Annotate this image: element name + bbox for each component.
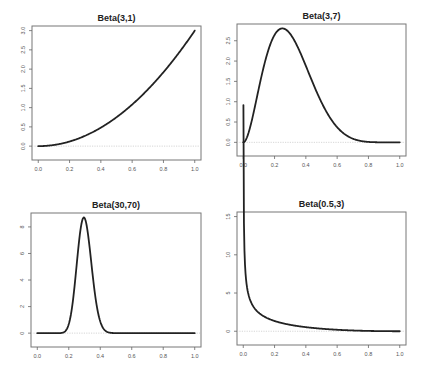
x-tick-label: 0.8 [160, 166, 168, 172]
y-tick-label: 1.5 [225, 78, 231, 86]
x-tick-label: 0.2 [65, 353, 73, 359]
density-curve [243, 28, 399, 142]
y-tick-label: 0.0 [20, 142, 26, 150]
y-tick-label: 0 [225, 330, 231, 333]
x-tick-label: 0.8 [365, 351, 373, 357]
plot-frame [32, 26, 201, 160]
panel-top-left: Beta(3,1)0.00.20.40.60.81.00.00.51.01.52… [20, 13, 201, 172]
y-tick-label: 4 [19, 278, 25, 281]
chart-title: Beta(3,1) [97, 13, 135, 23]
chart-title: Beta(0.5,3) [299, 199, 345, 209]
x-tick-label: 0.8 [365, 162, 373, 168]
y-tick-label: 0.5 [20, 123, 26, 131]
plot-frame [237, 212, 406, 345]
x-tick-label: 0.6 [333, 162, 341, 168]
y-tick-label: 5 [225, 291, 231, 294]
y-tick-label: 2.5 [225, 37, 231, 45]
beta-density-figure: Beta(3,1)0.00.20.40.60.81.00.00.51.01.52… [0, 0, 422, 379]
y-tick-label: 15 [225, 214, 231, 220]
chart-title: Beta(30,70) [92, 200, 140, 210]
plot-frame [31, 213, 201, 347]
x-tick-label: 1.0 [396, 351, 404, 357]
x-tick-label: 0.6 [333, 351, 341, 357]
y-tick-label: 2 [19, 305, 25, 308]
x-tick-label: 0.8 [159, 353, 167, 359]
y-tick-label: 2.5 [20, 46, 26, 54]
y-tick-label: 3.0 [20, 27, 26, 35]
x-tick-label: 0.2 [271, 351, 279, 357]
x-tick-label: 0.2 [271, 162, 279, 168]
y-tick-label: 0.5 [225, 118, 231, 126]
x-tick-label: 0.6 [128, 353, 136, 359]
y-tick-label: 1.0 [20, 104, 26, 112]
x-tick-label: 0.4 [96, 353, 104, 359]
y-tick-label: 2.0 [225, 57, 231, 65]
y-tick-label: 2.0 [20, 65, 26, 73]
y-tick-label: 10 [225, 252, 231, 258]
plot-frame [237, 24, 406, 156]
density-curve [37, 217, 194, 333]
x-tick-label: 0.2 [66, 166, 74, 172]
panel-bottom-left: Beta(30,70)0.00.20.40.60.81.002468 [19, 200, 201, 359]
density-curve [243, 105, 399, 331]
x-tick-label: 1.0 [191, 166, 199, 172]
chart-title: Beta(3,7) [302, 11, 340, 21]
y-tick-label: 0 [19, 332, 25, 335]
x-tick-label: 0.6 [128, 166, 136, 172]
x-tick-label: 0.0 [34, 166, 42, 172]
y-tick-label: 1.5 [20, 85, 26, 93]
density-curve [38, 31, 194, 147]
y-tick-label: 6 [19, 252, 25, 255]
y-tick-label: 8 [19, 225, 25, 228]
y-tick-label: 1.0 [225, 98, 231, 106]
x-tick-label: 0.4 [302, 351, 310, 357]
panel-top-right: Beta(3,7)0.00.20.40.60.81.00.00.51.01.52… [225, 11, 406, 168]
x-tick-label: 1.0 [396, 162, 404, 168]
x-tick-label: 0.0 [239, 351, 247, 357]
x-tick-label: 0.4 [302, 162, 310, 168]
x-tick-label: 1.0 [191, 353, 199, 359]
x-tick-label: 0.4 [97, 166, 105, 172]
y-tick-label: 0.0 [225, 139, 231, 147]
x-tick-label: 0.0 [33, 353, 41, 359]
